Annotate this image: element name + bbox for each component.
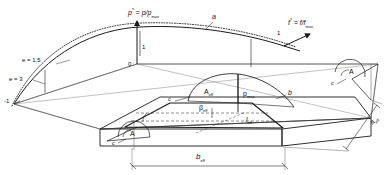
a-eff-ext-bottom [283, 147, 348, 151]
plane-ruling-1 [14, 64, 378, 104]
corner-label-left-a: A [130, 130, 135, 137]
exponent-label-e15: e = 1,5 [22, 57, 41, 63]
curve-label-a: a [212, 13, 216, 20]
chamfer-label-left-c: c [112, 141, 115, 147]
tick-label-vertical-one: 1 [142, 44, 145, 50]
plane-ruling-6 [371, 64, 378, 118]
horizontal-axis-label-eq: = f/f [292, 19, 306, 26]
label-angle-beta-eff: βeff [199, 104, 207, 113]
l-eff-leader-dashed [196, 112, 246, 133]
chamfer-right-leader [337, 79, 346, 84]
label-breadth-eff: beff [196, 153, 205, 163]
a-eff-tick-top [374, 103, 380, 108]
label-length-eff-sub: eff [248, 120, 252, 125]
chamfer-label-right-c: c [331, 81, 334, 87]
curve-a-right-tail [284, 46, 300, 51]
plane-ruling-4 [14, 64, 137, 104]
label-area-eff-sub: eff [209, 92, 213, 97]
corner-label-right-a: A [349, 68, 354, 75]
corner-arc-right-inner [341, 70, 349, 76]
label-angle-beta-sub: eff [203, 108, 207, 113]
slab-top-face [100, 97, 371, 129]
exponent-label-e3: e = 3 [9, 76, 23, 82]
beta-eff-arc [143, 113, 147, 122]
curve-label-b: b [288, 89, 292, 96]
reference-plane [14, 64, 378, 129]
horizontal-axis-label: f* = f/fmax [288, 19, 313, 29]
tick-label-origin-zero: 0 [128, 61, 131, 67]
label-pressure-max-sub: max [247, 94, 255, 99]
horizontal-axis-label-sub: max [306, 24, 314, 29]
tick-right-one [284, 44, 288, 46]
vertical-axis-label-eq: = p/p [134, 9, 152, 16]
e15-leader [56, 60, 70, 64]
label-length-eff: leff [246, 116, 252, 125]
pressure-dome-base-right [238, 103, 294, 107]
vertical-axis-label-sub: max [151, 14, 159, 19]
tick-label-right-one: 1 [277, 30, 280, 36]
e3-leader [33, 80, 45, 84]
a-eff-dimension-line [346, 105, 377, 149]
label-area-eff: Aeff [204, 88, 213, 97]
label-pressure-max: pmax [243, 90, 254, 99]
plane-ruling-3 [14, 104, 100, 129]
label-breadth-eff-sub: eff [200, 158, 204, 163]
diagram-svg [0, 0, 386, 175]
tick-label-left-minus-one: -1 [4, 98, 9, 104]
figure-canvas: p* = p/pmax f* = f/fmax 1 1 0 -1 e = 1,5… [0, 0, 386, 175]
chamfer-label-center-c: c [168, 97, 171, 103]
a-eff-tick-bottom [343, 146, 349, 151]
vertical-axis-label: p* = p/pmax [128, 9, 159, 19]
